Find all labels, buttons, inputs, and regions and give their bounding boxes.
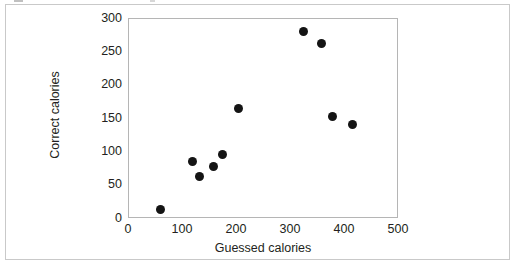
- data-point: [348, 120, 357, 129]
- y-axis-title: Correct calories: [48, 55, 62, 175]
- x-axis-tick-labels: 0100200300400500: [0, 0, 518, 269]
- data-point: [317, 39, 326, 48]
- data-point: [299, 27, 308, 36]
- x-tick-label: 0: [106, 222, 150, 236]
- data-point: [156, 205, 165, 214]
- data-point: [218, 150, 227, 159]
- x-tick-label: 300: [268, 222, 312, 236]
- scatter-chart: 050100150200250300 0100200300400500 Gues…: [0, 0, 518, 269]
- x-tick-label: 500: [376, 222, 420, 236]
- data-point: [234, 104, 243, 113]
- x-tick-label: 200: [214, 222, 258, 236]
- x-axis-title: Guessed calories: [128, 241, 398, 255]
- data-point: [328, 112, 337, 121]
- x-tick-label: 100: [160, 222, 204, 236]
- x-tick-label: 400: [322, 222, 366, 236]
- data-point: [209, 162, 218, 171]
